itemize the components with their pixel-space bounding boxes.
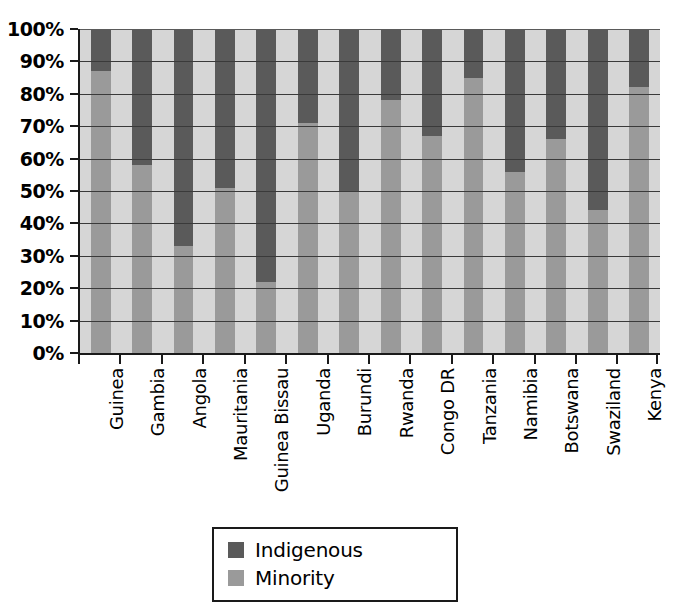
bar-segment-indigenous <box>464 29 484 78</box>
x-axis-tick-label: Kenya <box>646 368 664 422</box>
x-tick-cell <box>202 355 243 364</box>
bar-segment-indigenous <box>298 29 318 123</box>
bar-segment-indigenous <box>174 29 194 246</box>
x-label-cell: Tanzania <box>451 368 492 518</box>
x-tick-mark <box>451 355 453 364</box>
bar-slot <box>453 29 494 353</box>
plot-area <box>78 29 660 355</box>
legend-swatch-icon <box>228 570 244 586</box>
bar-segment-minority <box>588 210 608 353</box>
y-tick-mark <box>70 28 78 30</box>
x-tick-mark <box>656 355 658 364</box>
x-tick-cell <box>161 355 202 364</box>
bar-segment-indigenous <box>546 29 566 139</box>
bar-segment-indigenous <box>422 29 442 136</box>
y-tick-label: 40% <box>20 214 64 233</box>
bar-segment-minority <box>422 136 442 353</box>
bar-segment-indigenous <box>339 29 359 191</box>
x-tick-cell <box>492 355 533 364</box>
x-tick-mark <box>616 355 618 364</box>
y-tick-label: 100% <box>7 20 64 39</box>
y-tick-mark <box>70 125 78 127</box>
stacked-bar <box>215 29 235 353</box>
bar-segment-indigenous <box>132 29 152 165</box>
x-label-cell: Guinea Bissau <box>244 368 285 518</box>
bar-slot <box>577 29 618 353</box>
bar-slot <box>80 29 121 353</box>
x-tick-cell <box>78 355 119 364</box>
y-tick-mark <box>70 158 78 160</box>
x-tick-cell <box>451 355 492 364</box>
bar-slot <box>536 29 577 353</box>
y-tick-label: 10% <box>20 311 64 330</box>
bar-slot <box>204 29 245 353</box>
x-tick-mark <box>492 355 494 364</box>
x-tick-mark <box>202 355 204 364</box>
x-axis-labels: GuineaGambiaAngolaMauritaniaGuinea Bissa… <box>78 368 658 518</box>
bar-slot <box>494 29 535 353</box>
bar-segment-minority <box>505 172 525 353</box>
x-tick-cell <box>616 355 657 364</box>
x-tick-mark <box>285 355 287 364</box>
x-tick-cell <box>368 355 409 364</box>
y-axis: 100%90%80%70%60%50%40%30%20%10%0% <box>0 0 72 611</box>
y-tick-label: 30% <box>20 246 64 265</box>
stacked-bar <box>298 29 318 353</box>
y-tick-mark <box>70 255 78 257</box>
stacked-bar <box>174 29 194 353</box>
x-label-cell: Namibia <box>492 368 533 518</box>
bar-segment-minority <box>256 282 276 353</box>
stacked-bar <box>588 29 608 353</box>
x-tick-cell <box>575 355 616 364</box>
legend-item-label: Minority <box>255 568 335 588</box>
y-tick-label: 90% <box>20 52 64 71</box>
x-label-cell: Uganda <box>285 368 326 518</box>
stacked-bar <box>505 29 525 353</box>
bar-segment-minority <box>546 139 566 353</box>
x-tick-mark <box>327 355 329 364</box>
x-tick-mark <box>409 355 411 364</box>
bar-slot <box>370 29 411 353</box>
bar-segment-minority <box>381 100 401 353</box>
stacked-bar <box>464 29 484 353</box>
x-label-cell: Mauritania <box>202 368 243 518</box>
x-tick-mark <box>78 355 80 364</box>
bar-segment-indigenous <box>256 29 276 282</box>
bar-segment-minority <box>174 246 194 353</box>
x-tick-mark <box>161 355 163 364</box>
bar-slot <box>246 29 287 353</box>
x-label-cell: Rwanda <box>368 368 409 518</box>
x-label-cell: Guinea <box>78 368 119 518</box>
bar-segment-minority <box>464 78 484 353</box>
x-label-cell: Kenya <box>616 368 657 518</box>
legend-item-label: Indigenous <box>255 540 363 560</box>
bar-segment-indigenous <box>505 29 525 172</box>
y-tick-mark <box>70 320 78 322</box>
x-label-cell: Congo DR <box>409 368 450 518</box>
bar-segment-indigenous <box>381 29 401 100</box>
x-tick-cell <box>534 355 575 364</box>
x-label-cell: Botswana <box>534 368 575 518</box>
y-tick-mark <box>70 287 78 289</box>
bar-segment-indigenous <box>588 29 608 210</box>
bar-segment-indigenous <box>91 29 111 71</box>
y-tick-label: 0% <box>33 344 64 363</box>
x-tick-mark <box>534 355 536 364</box>
y-tick-label: 50% <box>20 182 64 201</box>
y-tick-label: 80% <box>20 84 64 103</box>
x-label-cell: Swaziland <box>575 368 616 518</box>
bar-segment-indigenous <box>629 29 649 87</box>
bar-slot <box>121 29 162 353</box>
stacked-bar <box>381 29 401 353</box>
x-tick-cell <box>119 355 160 364</box>
legend-item: Indigenous <box>228 536 446 564</box>
x-label-cell: Burundi <box>327 368 368 518</box>
stacked-bar <box>546 29 566 353</box>
y-tick-mark <box>70 60 78 62</box>
stacked-bar <box>256 29 276 353</box>
x-tick-mark <box>368 355 370 364</box>
x-tick-mark <box>244 355 246 364</box>
legend-item: Minority <box>228 564 446 592</box>
bars-layer <box>80 29 660 353</box>
x-label-cell: Gambia <box>119 368 160 518</box>
